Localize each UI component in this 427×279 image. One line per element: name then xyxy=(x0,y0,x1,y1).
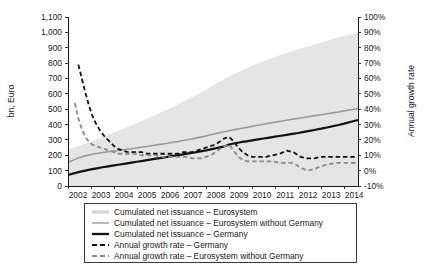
y2-tick-label: 30% xyxy=(364,120,381,130)
y-tick-label: 800 xyxy=(48,58,62,68)
y-tick-label: 200 xyxy=(48,150,62,160)
y-tick-label: 0 xyxy=(57,181,62,191)
y-tick-label: 900 xyxy=(48,43,62,53)
y2-tick-label: -10% xyxy=(364,181,384,191)
y-tick-label: 500 xyxy=(48,104,62,114)
legend-label-3: Annual growth rate – Germany xyxy=(114,240,229,250)
x-tick-label: 2002 xyxy=(69,190,88,200)
x-tick-label: 2005 xyxy=(138,190,157,200)
x-tick-label: 2007 xyxy=(184,190,203,200)
y-tick-label: 100 xyxy=(48,166,62,176)
x-tick-label: 2010 xyxy=(253,190,272,200)
legend-label-2: Cumulated net issuance – Germany xyxy=(114,229,248,239)
y-tick-label: 400 xyxy=(48,120,62,130)
x-tick-label: 2014 xyxy=(345,190,364,200)
y-tick-label: 300 xyxy=(48,135,62,145)
y2-tick-label: 50% xyxy=(364,89,381,99)
x-tick-label: 2009 xyxy=(230,190,249,200)
y-axis-left-title: bn, Euro xyxy=(6,85,16,118)
y-tick-label: 1,100 xyxy=(41,12,62,22)
y-axis-right-title: Annual growth rate xyxy=(406,65,416,137)
chart-figure: 01002003004005006007008009001,0001,100 -… xyxy=(0,0,427,279)
y2-tick-label: 90% xyxy=(364,27,381,37)
x-tick-label: 2013 xyxy=(322,190,341,200)
y-axis-left-ticks: 01002003004005006007008009001,0001,100 xyxy=(41,12,68,191)
x-tick-label: 2003 xyxy=(92,190,111,200)
chart-canvas: 01002003004005006007008009001,0001,100 -… xyxy=(0,0,427,279)
y2-tick-label: 100% xyxy=(364,12,386,22)
x-axis-ticks: 2002200320042005200620072008200920102011… xyxy=(68,186,364,200)
y2-tick-label: 10% xyxy=(364,150,381,160)
y-tick-label: 700 xyxy=(48,73,62,83)
y2-tick-label: 80% xyxy=(364,43,381,53)
y2-tick-label: 20% xyxy=(364,135,381,145)
y-tick-label: 600 xyxy=(48,89,62,99)
x-tick-label: 2006 xyxy=(161,190,180,200)
y2-tick-label: 70% xyxy=(364,58,381,68)
legend-label-0: Cumulated net issuance – Eurosystem xyxy=(114,207,257,217)
y2-tick-label: 60% xyxy=(364,73,381,83)
x-tick-label: 2008 xyxy=(207,190,226,200)
x-tick-label: 2011 xyxy=(276,190,294,200)
legend-label-1: Cumulated net issuance – Eurosystem with… xyxy=(114,218,324,228)
y2-tick-label: 40% xyxy=(364,104,381,114)
y2-tick-label: 0% xyxy=(364,166,377,176)
legend-label-4: Annual growth rate – Eurosystem without … xyxy=(114,251,304,261)
x-tick-label: 2004 xyxy=(115,190,134,200)
y-axis-right-ticks: -10%0%10%20%30%40%50%60%70%80%90%100% xyxy=(358,12,386,191)
y-tick-label: 1,000 xyxy=(41,27,62,37)
x-tick-label: 2012 xyxy=(299,190,318,200)
